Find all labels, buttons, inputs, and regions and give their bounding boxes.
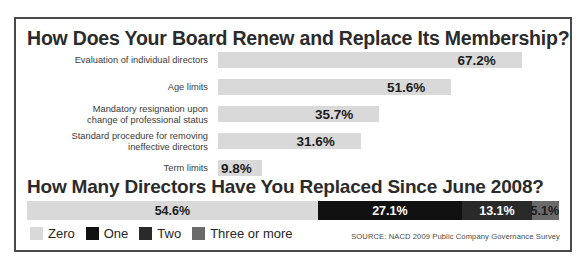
stacked-segment-label: 54.6% — [155, 204, 190, 218]
bar-category-label: Standard procedure for removing ineffect… — [16, 131, 208, 152]
legend-label: One — [104, 226, 129, 241]
legend-swatch-icon — [30, 227, 43, 240]
legend-label: Three or more — [210, 226, 292, 241]
legend-swatch-icon — [192, 227, 205, 240]
bar-category-label: Age limits — [16, 82, 208, 93]
bar-fill — [218, 133, 361, 149]
section-1-title: How Does Your Board Renew and Replace It… — [16, 29, 569, 49]
legend-label: Two — [157, 226, 181, 241]
bar-value-label: 51.6% — [387, 80, 425, 95]
bar-track: 35.7% — [218, 106, 379, 122]
stacked-segment: 54.6% — [27, 201, 318, 220]
bar-track: 9.8% — [218, 160, 262, 176]
bar-row: Mandatory resignation upon change of pro… — [16, 106, 570, 122]
bar-track: 67.2% — [218, 52, 522, 68]
legend-item: Two — [139, 226, 181, 241]
bar-category-label: Evaluation of individual directors — [16, 55, 208, 66]
bar-value-label: 67.2% — [457, 53, 495, 68]
bar-fill — [218, 106, 379, 122]
legend-item: One — [86, 226, 129, 241]
bar-category-label: Term limits — [16, 163, 208, 174]
legend-swatch-icon — [139, 227, 152, 240]
stacked-segment-label: 27.1% — [372, 204, 407, 218]
bar-chart-renew-replace: Evaluation of individual directors67.2%A… — [16, 52, 570, 172]
stacked-segment: 27.1% — [318, 201, 462, 220]
bar-value-label: 9.8% — [221, 161, 252, 176]
bar-value-label: 31.6% — [297, 134, 335, 149]
bar-track: 51.6% — [218, 79, 451, 95]
infographic-panel: How Does Your Board Renew and Replace It… — [14, 17, 572, 252]
legend-item: Zero — [30, 226, 75, 241]
bar-row: Standard procedure for removing ineffect… — [16, 133, 570, 149]
legend-label: Zero — [48, 226, 75, 241]
stacked-segment: 13.1% — [462, 201, 532, 220]
source-note: SOURCE: NACD 2009 Public Company Governa… — [351, 232, 560, 241]
stacked-bar-directors-replaced: 54.6%27.1%13.1%5.1% — [27, 201, 559, 220]
legend-item: Three or more — [192, 226, 292, 241]
legend: ZeroOneTwoThree or more — [30, 226, 293, 241]
bar-row: Term limits9.8% — [16, 160, 570, 176]
bar-row: Age limits51.6% — [16, 79, 570, 95]
legend-swatch-icon — [86, 227, 99, 240]
bar-value-label: 35.7% — [315, 107, 353, 122]
section-2-title: How Many Directors Have You Replaced Sin… — [16, 177, 544, 196]
bar-category-label: Mandatory resignation upon change of pro… — [16, 104, 208, 125]
bar-row: Evaluation of individual directors67.2% — [16, 52, 570, 68]
stacked-segment-label: 5.1% — [531, 204, 560, 218]
stacked-segment-label: 13.1% — [479, 204, 514, 218]
bar-track: 31.6% — [218, 133, 361, 149]
